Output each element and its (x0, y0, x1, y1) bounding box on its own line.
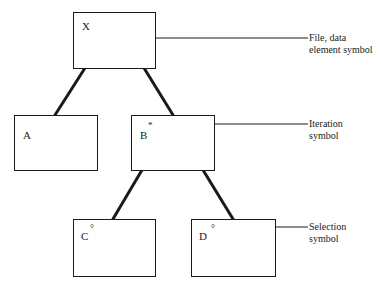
node-d-label: D (199, 230, 207, 242)
node-b: B * (131, 115, 215, 171)
edge-x-a (55, 68, 85, 115)
node-a-label: A (23, 129, 31, 141)
selection-symbol-icon: ° (211, 223, 215, 234)
node-c-label: C (81, 230, 88, 242)
node-b-label: B (140, 129, 147, 141)
edge-x-b (144, 68, 173, 115)
node-d: D ° (191, 219, 276, 277)
annotation-selection: Selection symbol (309, 221, 346, 245)
node-x-label: X (82, 20, 90, 32)
node-a: A (14, 115, 98, 171)
node-c: C ° (73, 219, 156, 277)
annotation-file: File, data element symbol (309, 32, 373, 56)
annotation-iteration: Iteration symbol (309, 118, 343, 142)
edge-b-d (203, 170, 233, 219)
node-x: X (73, 12, 156, 69)
iteration-symbol-icon: * (148, 120, 153, 130)
selection-symbol-icon: ° (90, 223, 94, 234)
edge-b-c (113, 170, 142, 219)
